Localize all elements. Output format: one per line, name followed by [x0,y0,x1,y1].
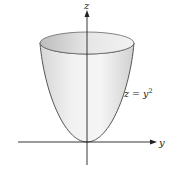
equation-base: z = y [123,88,149,99]
z-axis-arrow-icon [85,10,90,17]
surface-equation-label: z = y2 [123,87,153,99]
y-axis-arrow-icon [150,140,157,145]
equation-exponent: 2 [148,87,152,95]
paraboloid-diagram: z y z = y2 [0,0,177,176]
y-axis-label: y [158,137,165,148]
z-axis-label: z [83,0,90,11]
